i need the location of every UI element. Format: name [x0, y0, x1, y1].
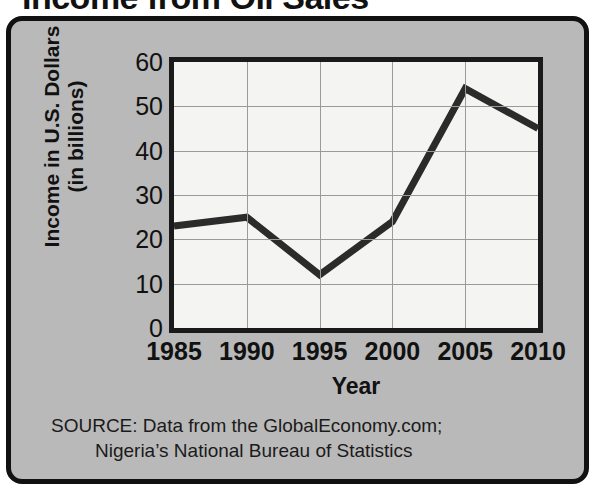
source-note-line1: SOURCE: Data from the GlobalEconomy.com;	[51, 415, 442, 436]
gridline-horizontal	[174, 195, 538, 196]
y-axis-tick-10: 10	[135, 269, 163, 298]
x-axis-label: Year	[169, 373, 543, 400]
figure-panel: Income in U.S. Dollars (in billions) 010…	[6, 16, 589, 484]
plot-area	[169, 57, 543, 333]
gridline-horizontal	[174, 106, 538, 107]
y-axis-label: Income in U.S. Dollars (in billions)	[40, 16, 87, 262]
y-axis-tick-20: 20	[135, 225, 163, 254]
x-axis-tick-labels: 198519901995200020052010	[11, 337, 589, 369]
y-axis-tick-60: 60	[135, 48, 163, 77]
x-axis-tick-2010: 2010	[510, 337, 566, 366]
page-title: Income from Oil Sales	[22, 0, 369, 14]
plot-inner	[174, 62, 538, 328]
x-axis-tick-2000: 2000	[365, 337, 421, 366]
source-note-line2: Nigeria’s National Bureau of Statistics	[51, 438, 551, 463]
x-axis-tick-1990: 1990	[219, 337, 275, 366]
gridline-horizontal	[174, 239, 538, 240]
oil-sales-line	[174, 89, 538, 275]
x-axis-tick-1995: 1995	[292, 337, 348, 366]
y-axis-label-line1: Income in U.S. Dollars	[40, 26, 63, 248]
gridline-vertical	[392, 62, 393, 328]
x-axis-tick-1985: 1985	[146, 337, 202, 366]
chart-title-strip: Income from Oil Sales	[0, 0, 601, 14]
x-axis-tick-2005: 2005	[437, 337, 493, 366]
y-axis-tick-40: 40	[135, 136, 163, 165]
y-axis-tick-30: 30	[135, 181, 163, 210]
y-axis-label-line2: (in billions)	[64, 16, 88, 262]
gridline-horizontal	[174, 151, 538, 152]
gridline-vertical	[247, 62, 248, 328]
y-axis-tick-50: 50	[135, 92, 163, 121]
gridline-horizontal	[174, 284, 538, 285]
source-note: SOURCE: Data from the GlobalEconomy.com;…	[51, 413, 551, 463]
gridline-vertical	[465, 62, 466, 328]
gridline-vertical	[320, 62, 321, 328]
